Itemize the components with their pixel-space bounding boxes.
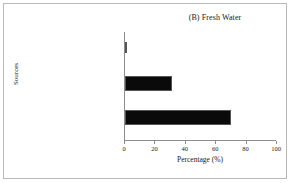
x-axis-tick-label: 0 — [114, 145, 134, 152]
x-axis-tick-label: 80 — [236, 145, 256, 152]
x-axis-tick-mark — [215, 141, 216, 144]
chart-title: (B) Fresh Water — [150, 13, 280, 22]
x-axis-tick-mark — [185, 141, 186, 144]
chart-page: (B) Fresh Water Sources Surface water & … — [0, 0, 291, 183]
bar — [125, 42, 127, 53]
x-axis-tick-label: 60 — [205, 145, 225, 152]
x-axis-tick-mark — [154, 141, 155, 144]
bar — [125, 76, 172, 91]
x-axis-tick-label: 20 — [144, 145, 164, 152]
y-axis-title: Sources — [12, 52, 20, 96]
x-axis-tick-label: 100 — [266, 145, 286, 152]
bar — [125, 110, 231, 125]
x-axis-tick-mark — [124, 141, 125, 144]
plot-area: Surface water & other fresh water Ground… — [124, 32, 276, 140]
x-axis-title: Percentage (%) — [124, 155, 276, 164]
x-axis-tick-mark — [276, 141, 277, 144]
x-axis-tick-label: 40 — [175, 145, 195, 152]
x-axis-tick-mark — [246, 141, 247, 144]
x-axis-line — [124, 140, 276, 141]
